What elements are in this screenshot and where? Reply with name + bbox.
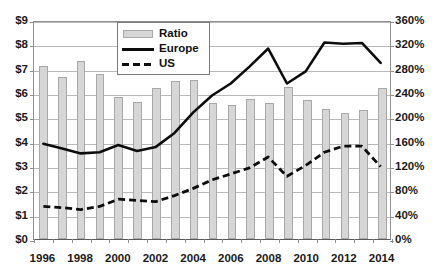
x-axis-tick xyxy=(72,239,73,243)
y-axis-left-tick-label: $2 xyxy=(2,185,28,197)
dashed-line-swatch-icon xyxy=(122,58,154,70)
y-axis-right-tick-label: 40% xyxy=(395,210,439,222)
y-axis-left-tick-label: $6 xyxy=(2,88,28,100)
y-axis-right-tick-label: 280% xyxy=(395,64,439,76)
x-axis-tick-label: 2006 xyxy=(211,253,251,265)
x-axis-tick xyxy=(279,239,280,243)
solid-line-swatch-icon xyxy=(122,43,154,55)
chart-legend: Ratio Europe US xyxy=(117,22,210,75)
x-axis-tick xyxy=(335,239,336,243)
legend-item-us: US xyxy=(122,56,204,71)
x-axis-tick xyxy=(91,239,92,243)
y-axis-right-tick-label: 320% xyxy=(395,39,439,51)
y-axis-right-tick-label: 200% xyxy=(395,112,439,124)
y-axis-right-tick xyxy=(390,71,394,72)
legend-item-ratio: Ratio xyxy=(122,26,204,41)
x-axis-tick xyxy=(241,239,242,243)
x-axis-tick xyxy=(373,239,374,243)
x-axis-tick xyxy=(222,239,223,243)
x-axis-tick-label: 2014 xyxy=(362,253,402,265)
legend-item-europe: Europe xyxy=(122,41,204,56)
x-axis-tick xyxy=(109,239,110,243)
y-axis-left-tick-label: $7 xyxy=(2,64,28,76)
x-axis-tick xyxy=(260,239,261,243)
x-axis-tick-label: 2002 xyxy=(135,253,175,265)
x-axis-tick xyxy=(298,239,299,243)
x-axis-tick-label: 1996 xyxy=(22,253,62,265)
y-axis-right-tick-label: 0% xyxy=(395,234,439,246)
chart-container: $0$1$2$3$4$5$6$7$8$9 0%40%80%120%160%200… xyxy=(0,0,441,276)
x-axis-tick xyxy=(166,239,167,243)
x-axis-tick xyxy=(34,239,35,243)
x-axis-tick-label: 2010 xyxy=(286,253,326,265)
x-axis-tick xyxy=(317,239,318,243)
line-series-us xyxy=(43,146,380,209)
y-axis-right-tick-label: 80% xyxy=(395,185,439,197)
bar-swatch-icon xyxy=(122,28,154,40)
y-axis-right-tick xyxy=(390,22,394,23)
y-axis-right-tick-label: 360% xyxy=(395,15,439,27)
x-axis-tick xyxy=(354,239,355,243)
x-axis-tick xyxy=(204,239,205,243)
x-axis-tick-label: 2008 xyxy=(249,253,289,265)
plot-area xyxy=(33,21,391,240)
x-axis-tick xyxy=(392,239,393,243)
legend-label-ratio: Ratio xyxy=(159,28,188,40)
y-axis-right-tick xyxy=(390,192,394,193)
y-axis-right-tick-label: 160% xyxy=(395,137,439,149)
y-axis-right-tick-label: 240% xyxy=(395,88,439,100)
y-axis-right-tick xyxy=(390,119,394,120)
y-axis-right-tick xyxy=(390,168,394,169)
y-axis-left-tick-label: $4 xyxy=(2,137,28,149)
x-axis-tick-label: 2000 xyxy=(98,253,138,265)
y-axis-left-tick-label: $5 xyxy=(2,112,28,124)
y-axis-left-tick-label: $9 xyxy=(2,15,28,27)
x-axis-tick-label: 2004 xyxy=(173,253,213,265)
x-axis-tick xyxy=(128,239,129,243)
x-axis-tick-label: 2012 xyxy=(324,253,364,265)
x-axis-tick xyxy=(147,239,148,243)
y-axis-right-tick xyxy=(390,217,394,218)
y-axis-left-tick-label: $1 xyxy=(2,210,28,222)
line-series-europe xyxy=(43,42,380,153)
y-axis-right-tick xyxy=(390,95,394,96)
x-axis-tick xyxy=(185,239,186,243)
y-axis-left-tick-label: $3 xyxy=(2,161,28,173)
y-axis-right-tick-label: 120% xyxy=(395,161,439,173)
x-axis-tick-label: 1998 xyxy=(60,253,100,265)
y-axis-right-tick xyxy=(390,46,394,47)
x-axis-tick xyxy=(53,239,54,243)
y-axis-right-tick xyxy=(390,144,394,145)
legend-label-europe: Europe xyxy=(159,43,199,55)
y-axis-left-tick-label: $8 xyxy=(2,39,28,51)
legend-label-us: US xyxy=(159,58,175,70)
y-axis-left-tick-label: $0 xyxy=(2,234,28,246)
line-series-layer xyxy=(34,22,390,239)
